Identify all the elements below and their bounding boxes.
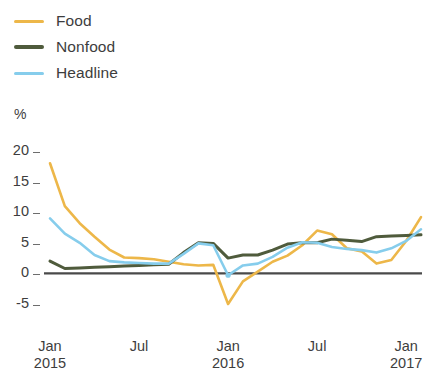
series-marker-headline [225,273,230,278]
series-line-food [50,163,421,304]
chart-figure: Food Nonfood Headline % 20 15 10 5 0 -5 … [0,0,426,385]
chart-plot-area [0,0,426,385]
series-marker-layer [225,273,230,278]
